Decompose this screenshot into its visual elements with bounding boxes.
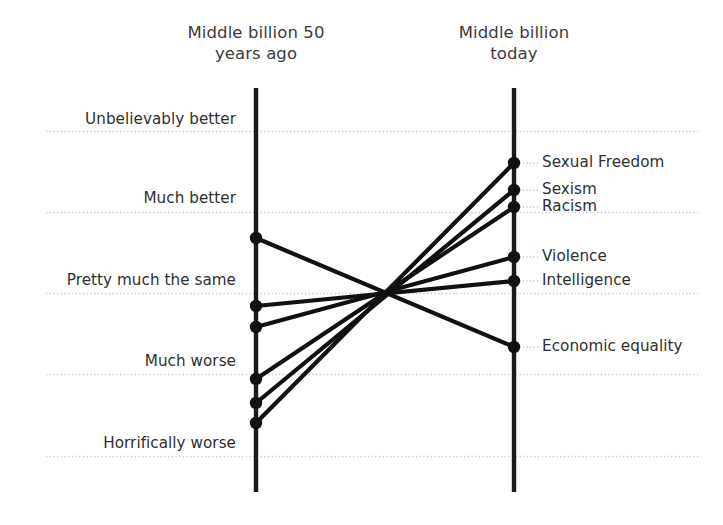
dot-left-intelligence xyxy=(250,300,262,312)
scale-label-pretty-much-the-same: Pretty much the same xyxy=(67,271,236,289)
dot-left-violence xyxy=(250,321,262,333)
category-label-economic-equality: Economic equality xyxy=(542,337,683,355)
dot-right-sexual-freedom xyxy=(508,157,520,169)
dot-right-violence xyxy=(508,251,520,263)
dot-right-racism xyxy=(508,201,520,213)
scale-label-much-better: Much better xyxy=(143,189,236,207)
slopegraph-chart: Middle billion 50 years ago Middle billi… xyxy=(0,0,723,525)
dot-left-racism xyxy=(250,373,262,385)
category-label-intelligence: Intelligence xyxy=(542,271,631,289)
dot-left-sexism xyxy=(250,397,262,409)
dot-left-economic-equality xyxy=(250,232,262,244)
dot-left-sexual-freedom xyxy=(250,417,262,429)
category-label-sexism: Sexism xyxy=(542,180,597,198)
slope-line-economic-equality xyxy=(256,238,514,347)
scale-label-unbelievably-better: Unbelievably better xyxy=(85,110,236,128)
dot-right-sexism xyxy=(508,184,520,196)
dot-right-economic-equality xyxy=(508,341,520,353)
dot-right-intelligence xyxy=(508,275,520,287)
slope-line-sexism xyxy=(256,190,514,403)
category-label-violence: Violence xyxy=(542,247,607,265)
category-label-sexual-freedom: Sexual Freedom xyxy=(542,153,664,171)
scale-label-much-worse: Much worse xyxy=(145,352,236,370)
category-label-racism: Racism xyxy=(542,197,597,215)
scale-label-horrifically-worse: Horrifically worse xyxy=(103,434,236,452)
